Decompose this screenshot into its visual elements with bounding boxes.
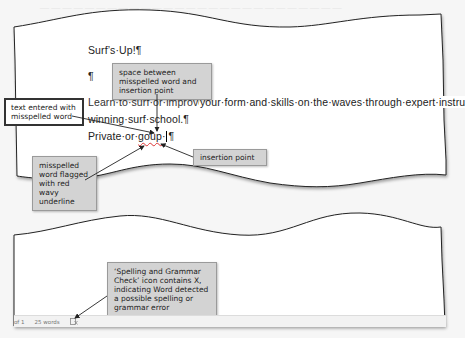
doc-line-blank-paragraph: ¶: [88, 70, 94, 82]
space-character: ·: [162, 130, 166, 142]
doc-line-private-or-goup[interactable]: Private·or·goup·¶: [88, 130, 174, 142]
doc-line-paragraph-1-visible: your·form·and·skills·on·the·waves·throug…: [199, 96, 465, 108]
callout-space-between: space between misspelled word and insert…: [112, 63, 212, 100]
callout-space-between-text: space between misspelled word and insert…: [119, 68, 196, 95]
callout-text-entered-text: text entered with misspelled word: [11, 103, 76, 121]
callout-insertion-point-text: insertion point: [200, 153, 254, 162]
word-count[interactable]: 25 words: [35, 319, 60, 325]
callout-text-entered: text entered with misspelled word: [4, 98, 84, 126]
doc-line-paragraph-1-line-2: winning·surf·school.¶: [88, 113, 189, 125]
callout-spelling-grammar-text: ‘Spelling and Grammar Check’ icon contai…: [114, 267, 208, 312]
callout-misspelled-flagged-text: misspelled word flagged with red wavy un…: [39, 161, 88, 206]
callout-insertion-point: insertion point: [193, 149, 267, 166]
page-indicator[interactable]: of 1: [14, 319, 25, 325]
doc-line-title: Surf’s·Up!¶: [88, 44, 141, 56]
callout-spelling-grammar-icon: ‘Spelling and Grammar Check’ icon contai…: [107, 262, 217, 317]
line-prefix-text: Private·or·: [88, 130, 138, 142]
spelling-grammar-check-icon[interactable]: [70, 318, 78, 325]
misspelled-word[interactable]: goup: [138, 130, 162, 142]
callout-misspelled-flagged: misspelled word flagged with red wavy un…: [32, 156, 97, 211]
pilcrow-mark: ¶: [168, 130, 174, 142]
status-bar: of 1 25 words: [14, 315, 446, 327]
